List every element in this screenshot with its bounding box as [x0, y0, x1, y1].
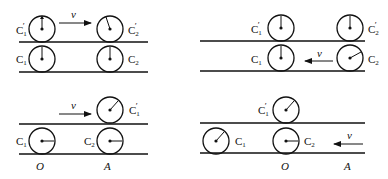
wheel-c1-prime: [268, 15, 294, 41]
panel-a: C1′ v C2′ C1 C2: [16, 8, 148, 72]
wheel-c2: [97, 46, 123, 72]
diagram-canvas: C1′ v C2′ C1 C2: [0, 0, 388, 179]
wheel-c2: [273, 128, 299, 154]
wheel-c1: [203, 128, 229, 154]
panel-b: C1′ C2′ C1 v C2: [200, 15, 379, 71]
velocity-label: v: [71, 8, 76, 20]
label-c1-prime: C1′: [129, 101, 140, 118]
label-c1-prime: C1′: [251, 20, 262, 37]
wheel-c1: [268, 45, 294, 71]
point-label-a: A: [103, 160, 111, 172]
point-label-a: A: [343, 160, 351, 172]
label-c1-prime: C1′: [16, 21, 27, 38]
point-label-o: O: [281, 160, 289, 172]
wheel-c2-prime: [337, 15, 363, 41]
wheel-c2: [97, 128, 123, 154]
label-c1: C1: [16, 53, 27, 67]
label-c2-prime: C2′: [368, 20, 379, 37]
label-c2: C2: [304, 135, 315, 149]
panel-c: v C1′ C1 C2 O A: [16, 97, 148, 172]
wheel-c2-prime: [97, 16, 123, 42]
label-c1: C1: [16, 135, 27, 149]
label-c2: C2: [368, 53, 379, 67]
velocity-label: v: [71, 99, 76, 111]
wheel-c1: [29, 46, 55, 72]
point-label-o: O: [36, 160, 44, 172]
velocity-label: v: [317, 47, 322, 59]
wheel-c1: [29, 128, 55, 154]
wheel-c2: [337, 45, 363, 71]
wheel-c1-prime: [29, 16, 55, 43]
label-c1-prime: C1′: [258, 101, 269, 118]
panel-d: C1′ C1 C2 v O A: [200, 97, 365, 172]
wheel-c1-prime: [97, 97, 123, 123]
label-c1: C1: [235, 135, 246, 149]
velocity-label: v: [347, 129, 352, 141]
wheel-c1-prime: [273, 97, 299, 123]
label-c2: C2: [128, 53, 139, 67]
label-c2: C2: [84, 135, 95, 149]
label-c2-prime: C2′: [128, 21, 139, 38]
label-c1: C1: [251, 53, 262, 67]
